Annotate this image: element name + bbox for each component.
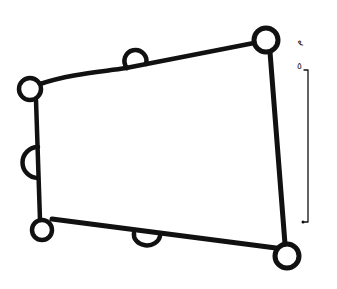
west-wall xyxy=(36,100,40,220)
scale-bar xyxy=(304,70,308,222)
scale-value-label: ٥ xyxy=(297,62,302,71)
fortification-plan xyxy=(0,0,337,289)
scale-bar-end-dot xyxy=(302,221,305,224)
east-wall xyxy=(270,52,285,244)
south-east-tower xyxy=(275,244,299,268)
north-east-tower xyxy=(254,28,278,52)
south-west-tower xyxy=(32,220,52,240)
north-west-tower xyxy=(19,78,41,100)
south-wall xyxy=(52,219,276,248)
